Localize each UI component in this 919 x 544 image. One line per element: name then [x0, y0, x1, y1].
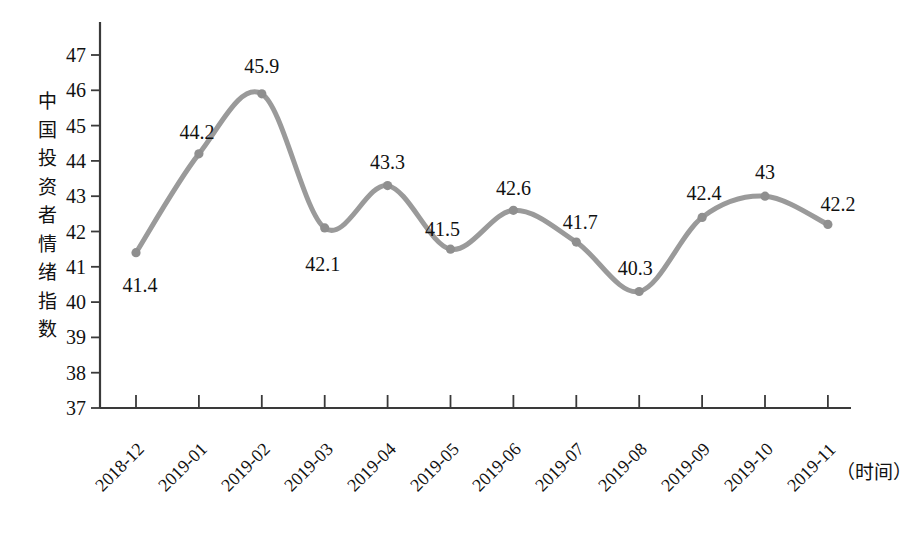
data-point-marker [509, 206, 518, 215]
data-point-label: 43 [755, 162, 775, 182]
y-tick-label: 45 [52, 116, 86, 136]
data-point-marker [194, 149, 203, 158]
data-point-marker [823, 220, 832, 229]
data-point-marker [131, 248, 140, 257]
y-tick-label: 39 [52, 327, 86, 347]
data-point-marker [760, 192, 769, 201]
data-point-label: 42.1 [305, 254, 340, 274]
data-point-label: 41.4 [123, 275, 158, 295]
x-axis-title: （时间） [836, 463, 912, 482]
data-point-label: 44.2 [179, 122, 214, 142]
y-tick-label: 40 [52, 292, 86, 312]
y-tick-label: 47 [52, 45, 86, 65]
series-line [136, 92, 828, 292]
data-point-marker [446, 245, 455, 254]
investor-sentiment-chart: 中国投资者情绪指数 3738394041424344454647 2018-12… [0, 0, 919, 544]
data-point-marker [572, 237, 581, 246]
y-tick-label: 41 [52, 257, 86, 277]
data-point-label: 43.3 [370, 152, 405, 172]
data-point-label: 41.7 [563, 212, 598, 232]
data-point-marker [383, 181, 392, 190]
data-point-marker [257, 89, 266, 98]
y-tick-label: 37 [52, 398, 86, 418]
y-tick-label: 46 [52, 80, 86, 100]
y-tick-label: 43 [52, 186, 86, 206]
y-tick-label: 38 [52, 363, 86, 383]
data-point-label: 42.2 [820, 194, 855, 214]
data-point-marker [635, 287, 644, 296]
data-point-label: 42.4 [687, 183, 722, 203]
data-point-label: 42.6 [496, 178, 531, 198]
data-point-marker [698, 213, 707, 222]
data-point-label: 41.5 [425, 219, 460, 239]
y-tick-label: 42 [52, 222, 86, 242]
data-point-label: 45.9 [244, 56, 279, 76]
data-point-label: 40.3 [618, 258, 653, 278]
y-tick-label: 44 [52, 151, 86, 171]
data-point-marker [320, 223, 329, 232]
